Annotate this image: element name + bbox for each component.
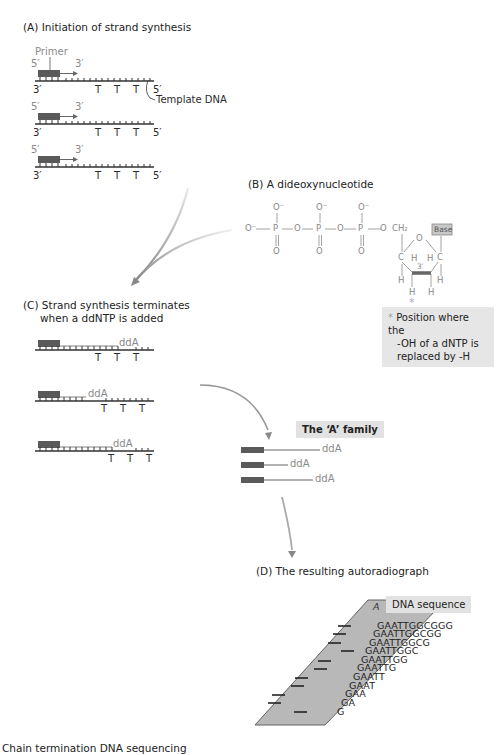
three-prime-position: 3′ xyxy=(417,262,423,271)
arrow-b-to-c xyxy=(135,230,232,281)
atom-h: H xyxy=(428,287,434,297)
base-t: T xyxy=(120,403,126,414)
atom-o: O xyxy=(294,223,301,233)
atom-o: O xyxy=(337,223,344,233)
base-t: T xyxy=(114,127,120,138)
base-t: T xyxy=(127,453,133,464)
atom-ch2: CH₂ xyxy=(392,223,408,233)
atom-o: O xyxy=(273,246,280,256)
base-t: T xyxy=(133,84,139,95)
base-t: T xyxy=(114,352,120,363)
atom-c: C xyxy=(398,252,404,262)
ring-oxygen: O xyxy=(416,233,423,243)
base-t: T xyxy=(114,84,120,95)
atom-o-minus: O⁻ xyxy=(245,223,256,233)
base-label: Base xyxy=(434,225,452,234)
base-t: T xyxy=(133,127,139,138)
a-family-title: The ‘A’ family xyxy=(296,421,384,438)
atom-p: P xyxy=(273,223,278,233)
note-line-3: replaced by -H xyxy=(388,351,470,362)
arrow-family-to-d xyxy=(282,497,292,550)
base-t: T xyxy=(95,352,101,363)
three-prime-end: 3′ xyxy=(33,170,42,181)
ddA-label: ddA xyxy=(119,337,139,348)
panel-d-title: (D) The resulting autoradiograph xyxy=(256,565,429,578)
atom-o-minus: O⁻ xyxy=(316,202,327,212)
atom-o: O xyxy=(358,246,365,256)
note-line-1: Position where the xyxy=(388,312,469,336)
panel-c-subtitle: when a ddNTP is added xyxy=(40,312,163,325)
atom-o: O xyxy=(380,223,387,233)
note-line-2: -OH of a dNTP is xyxy=(388,338,479,349)
base-t: T xyxy=(101,403,107,414)
base-t: T xyxy=(133,352,139,363)
base-t: T xyxy=(133,170,139,181)
fragment-ddA: ddA xyxy=(322,443,342,454)
fragment-ddA: ddA xyxy=(315,473,335,484)
arrow-a-to-c xyxy=(135,188,188,281)
panel-c-title: (C) Strand synthesis terminates xyxy=(23,299,190,312)
arrow-c-to-family xyxy=(200,385,268,430)
dideoxynucleotide-structure xyxy=(256,213,441,287)
five-prime-label: 5′ xyxy=(31,101,40,112)
five-prime-end: 5′ xyxy=(153,127,162,138)
fragment-ddA: ddA xyxy=(290,458,310,469)
base-t: T xyxy=(114,170,120,181)
panel-b-title: (B) A dideoxynucleotide xyxy=(248,178,374,191)
figure-caption: Chain termination DNA sequencing xyxy=(2,742,187,755)
five-prime-end: 5′ xyxy=(153,170,162,181)
atom-c: C xyxy=(437,252,443,262)
atom-o-minus: O⁻ xyxy=(273,202,284,212)
sequence-read: G xyxy=(337,707,344,717)
base-t: T xyxy=(108,453,114,464)
base-t: T xyxy=(95,127,101,138)
template-dna-label: Template DNA xyxy=(156,94,227,105)
five-prime-label: 5′ xyxy=(31,58,40,69)
base-t: T xyxy=(95,170,101,181)
atom-h: H xyxy=(427,253,433,263)
atom-p: P xyxy=(358,223,363,233)
three-prime-end: 3′ xyxy=(33,127,42,138)
ddA-label: ddA xyxy=(113,438,133,449)
atom-o-minus: O⁻ xyxy=(358,202,369,212)
base-t: T xyxy=(139,403,145,414)
base-t: T xyxy=(95,84,101,95)
panel-a-strands xyxy=(35,57,155,167)
three-prime-label: 3′ xyxy=(75,58,84,69)
dideoxy-note: * Position where the -OH of a dNTP is re… xyxy=(382,307,494,367)
atom-p: P xyxy=(316,223,321,233)
dna-sequence-label: DNA sequence xyxy=(386,596,471,613)
star-icon: * xyxy=(388,312,393,323)
three-prime-label: 3′ xyxy=(75,101,84,112)
lane-a: A xyxy=(373,601,380,612)
three-prime-end: 3′ xyxy=(33,84,42,95)
atom-o: O xyxy=(316,246,323,256)
three-prime-label: 3′ xyxy=(75,144,84,155)
five-prime-label: 5′ xyxy=(31,144,40,155)
base-t: T xyxy=(146,453,152,464)
atom-h: H xyxy=(398,275,404,285)
ddA-label: ddA xyxy=(88,388,108,399)
atom-h: H xyxy=(437,275,443,285)
